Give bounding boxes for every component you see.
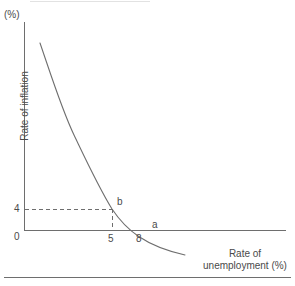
- y-tick-label-4: 4: [14, 203, 20, 215]
- x-axis-title-line2: unemployment (%): [198, 260, 292, 272]
- x-tick-label-8: 8: [136, 233, 142, 245]
- x-tick-label-5: 5: [108, 233, 114, 245]
- y-axis-title: Rate of inflation: [19, 56, 31, 156]
- bottom-horizontal-rule: [4, 277, 291, 278]
- axis-origin-label: 0: [14, 231, 20, 243]
- curve-point-label-a: a: [152, 219, 158, 231]
- curve-point-label-b: b: [117, 196, 123, 208]
- x-axis-title-line1: Rate of: [198, 248, 292, 260]
- phillips-curve-figure: [0, 0, 295, 286]
- x-axis-title: Rate of unemployment (%): [198, 248, 292, 272]
- page-edge-artifact: [30, 1, 150, 2]
- y-axis-unit-label: (%): [4, 9, 20, 21]
